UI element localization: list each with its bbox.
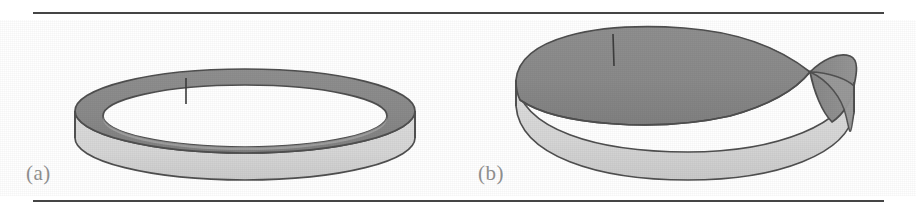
figure-panel-a: (a) xyxy=(0,20,458,196)
figure-panel-b: (b) xyxy=(458,20,916,196)
mobius-top-surface-left xyxy=(516,27,810,125)
horizontal-rule-bottom xyxy=(33,200,884,202)
mobius-crossing-point xyxy=(809,71,812,74)
figure-page: (a) xyxy=(0,0,916,210)
mobius-strip-illustration xyxy=(498,20,898,196)
panel-label-b: (b) xyxy=(478,163,504,184)
cylindrical-band-illustration xyxy=(55,20,435,196)
band-outer-wall xyxy=(75,111,415,180)
band-top-surface xyxy=(75,69,415,153)
panel-label-a: (a) xyxy=(26,163,51,184)
mobius-seam-line xyxy=(613,34,614,66)
horizontal-rule-top xyxy=(33,12,884,14)
